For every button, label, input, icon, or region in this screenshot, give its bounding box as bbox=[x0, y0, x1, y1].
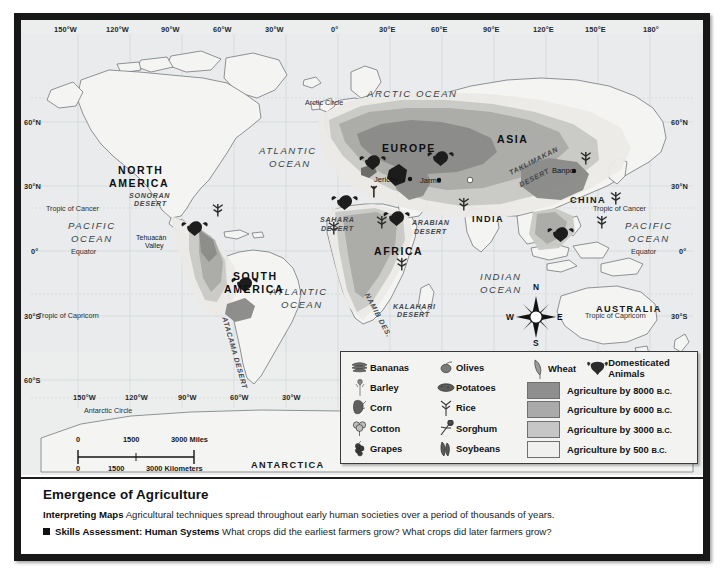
legend-item-agriculture-8000bc[interactable]: Agriculture by 8000 B.C. bbox=[527, 380, 691, 400]
scale-miles-3000: 3000 Miles bbox=[171, 435, 208, 444]
banana-icon bbox=[349, 358, 370, 377]
lat-label-right-30s: 30°S bbox=[671, 312, 688, 321]
legend-label-wheat: Wheat bbox=[548, 363, 576, 374]
lon-label-60e: 60°E bbox=[431, 25, 448, 34]
legend-item-soybeans[interactable]: Soybeans bbox=[435, 439, 527, 459]
legend-label-agriculture-6000bc: Agriculture by 6000 B.C. bbox=[567, 404, 672, 415]
caption-interpreting-maps: Interpreting Maps Agricultural technique… bbox=[43, 508, 689, 522]
legend-label-corn: Corn bbox=[370, 402, 392, 413]
legend-item-potatoes[interactable]: Potatoes bbox=[435, 377, 527, 397]
domesticated-animals-line1: Domesticated bbox=[608, 357, 669, 368]
legend-label-domesticated-animals: Domesticated Animals bbox=[608, 358, 669, 379]
cotton-icon bbox=[349, 419, 370, 438]
lon-label-90e: 90°E bbox=[483, 25, 500, 34]
figure-frame: 150°W 120°W 90°W 60°W 30°W 0° 30°E 60°E … bbox=[14, 13, 710, 561]
barley-icon bbox=[349, 378, 370, 397]
wheat-icon bbox=[527, 359, 548, 378]
caption-interpreting-maps-label: Interpreting Maps bbox=[43, 509, 124, 520]
lon-label-0: 0° bbox=[331, 25, 338, 34]
legend-label-rice: Rice bbox=[456, 402, 476, 413]
agri-500-era: B.C. bbox=[651, 446, 666, 455]
legend-column-periods: Wheat Domesticated Animals bbox=[527, 357, 691, 459]
agri-3000-era: B.C. bbox=[657, 426, 672, 435]
legend-column-crops-2: Olives Potatoes bbox=[435, 357, 527, 459]
lat-label-right-30n: 30°N bbox=[671, 182, 688, 191]
swatch-agriculture-3000bc bbox=[527, 421, 560, 438]
legend-item-sorghum[interactable]: Sorghum bbox=[435, 418, 527, 438]
lon-label-150w: 150°W bbox=[54, 25, 77, 34]
lon-label-120w: 120°W bbox=[106, 25, 129, 34]
lat-label-right-60n: 60°N bbox=[671, 118, 688, 127]
caption-title: Emergence of Agriculture bbox=[43, 487, 689, 502]
caption-skills-assessment-text: What crops did the earliest farmers grow… bbox=[222, 526, 552, 537]
bullet-square-icon bbox=[43, 528, 50, 535]
corn-icon bbox=[349, 398, 370, 417]
lon-label-120e: 120°E bbox=[533, 25, 554, 34]
compass-south-label: S bbox=[533, 338, 539, 348]
legend-label-grapes: Grapes bbox=[370, 443, 402, 454]
agri-500-text: Agriculture by 500 bbox=[567, 444, 649, 455]
legend-label-agriculture-3000bc: Agriculture by 3000 B.C. bbox=[567, 424, 672, 435]
swatch-agriculture-500bc bbox=[527, 441, 560, 458]
caption-interpreting-maps-text: Agricultural techniques spread throughou… bbox=[126, 509, 555, 520]
lon-label-90w: 90°W bbox=[161, 25, 180, 34]
legend-item-cotton[interactable]: Cotton bbox=[349, 418, 435, 438]
legend-item-agriculture-500bc[interactable]: Agriculture by 500 B.C. bbox=[527, 439, 691, 459]
world-map[interactable]: 150°W 120°W 90°W 60°W 30°W 0° 30°E 60°E … bbox=[21, 20, 703, 475]
grapes-icon bbox=[349, 439, 370, 458]
legend-label-soybeans: Soybeans bbox=[456, 443, 500, 454]
agri-3000-text: Agriculture by 3000 bbox=[567, 424, 654, 435]
lon-label-bottom-120w: 120°W bbox=[125, 393, 148, 402]
agri-6000-era: B.C. bbox=[657, 406, 672, 415]
map-legend[interactable]: Bananas Barley bbox=[340, 351, 698, 464]
lat-label-left-60n: 60°N bbox=[24, 118, 41, 127]
scale-miles-1500: 1500 bbox=[123, 435, 139, 444]
scale-km-3000: 3000 Kilometers bbox=[146, 464, 203, 473]
rice-icon bbox=[435, 398, 456, 417]
legend-item-olives[interactable]: Olives bbox=[435, 357, 527, 377]
compass-east-label: E bbox=[557, 312, 563, 322]
scale-bar: 0 1500 3000 Miles 0 1500 3000 Kilometers bbox=[76, 438, 266, 475]
lon-label-60w: 60°W bbox=[213, 25, 232, 34]
lon-label-bottom-30w: 30°W bbox=[282, 393, 301, 402]
legend-item-rice[interactable]: Rice bbox=[435, 398, 527, 418]
legend-item-barley[interactable]: Barley bbox=[349, 377, 435, 397]
legend-label-bananas: Bananas bbox=[370, 362, 409, 373]
legend-row-wheat-animals: Wheat Domesticated Animals bbox=[527, 357, 691, 380]
swatch-agriculture-6000bc bbox=[527, 401, 560, 418]
legend-label-barley: Barley bbox=[370, 382, 399, 393]
scale-miles-0: 0 bbox=[76, 435, 80, 444]
legend-item-agriculture-3000bc[interactable]: Agriculture by 3000 B.C. bbox=[527, 420, 691, 440]
domesticated-animals-line2: Animals bbox=[608, 368, 644, 379]
domesticated-animals-icon bbox=[587, 359, 608, 378]
swatch-agriculture-8000bc bbox=[527, 382, 560, 399]
legend-label-olives: Olives bbox=[456, 362, 484, 373]
lon-label-180: 180° bbox=[643, 25, 659, 34]
compass-rose: N E S W bbox=[508, 288, 564, 346]
scale-km-1500: 1500 bbox=[108, 464, 124, 473]
legend-label-agriculture-8000bc: Agriculture by 8000 B.C. bbox=[567, 385, 672, 396]
lat-label-right-0: 0° bbox=[679, 247, 686, 256]
scale-km-0: 0 bbox=[76, 464, 80, 473]
caption-skills-assessment-label: Skills Assessment: Human Systems bbox=[55, 526, 219, 537]
lat-label-left-30s: 30°S bbox=[24, 312, 41, 321]
lon-label-bottom-150w: 150°W bbox=[73, 393, 96, 402]
lon-label-150e: 150°E bbox=[585, 25, 606, 34]
agri-8000-text: Agriculture by 8000 bbox=[567, 385, 654, 396]
legend-item-bananas[interactable]: Bananas bbox=[349, 357, 435, 377]
compass-north-label: N bbox=[533, 282, 539, 292]
agri-8000-era: B.C. bbox=[657, 387, 672, 396]
agri-6000-text: Agriculture by 6000 bbox=[567, 404, 654, 415]
legend-item-grapes[interactable]: Grapes bbox=[349, 439, 435, 459]
legend-column-crops-1: Bananas Barley bbox=[349, 357, 435, 459]
legend-item-corn[interactable]: Corn bbox=[349, 398, 435, 418]
lon-label-30w: 30°W bbox=[265, 25, 284, 34]
figure-inner: 150°W 120°W 90°W 60°W 30°W 0° 30°E 60°E … bbox=[21, 20, 703, 554]
figure-caption: Emergence of Agriculture Interpreting Ma… bbox=[21, 477, 703, 554]
caption-skills-assessment: Skills Assessment: Human Systems What cr… bbox=[43, 525, 689, 539]
legend-item-agriculture-6000bc[interactable]: Agriculture by 6000 B.C. bbox=[527, 400, 691, 420]
compass-west-label: W bbox=[506, 312, 514, 322]
lon-label-bottom-90w: 90°W bbox=[178, 393, 197, 402]
soybean-icon bbox=[435, 439, 456, 458]
lat-label-left-30n: 30°N bbox=[24, 182, 41, 191]
